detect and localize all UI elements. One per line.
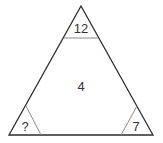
- top-corner-value: 12: [74, 21, 88, 36]
- bottom-left-corner-value: ?: [21, 119, 28, 134]
- bottom-right-corner-value: 7: [132, 119, 139, 134]
- center-value: 4: [77, 79, 84, 94]
- triangle-puzzle: 12 4 ? 7: [0, 0, 163, 143]
